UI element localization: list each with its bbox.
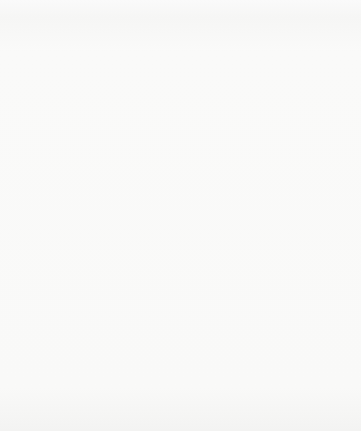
bar-chart-figure: 1101009080706050 Escape acceleration (m … [0, 0, 361, 431]
y-axis-tick-mark [89, 47, 96, 49]
bar [138, 103, 184, 322]
y-axis-tick-mark [89, 275, 96, 277]
x-axis-category-label-line: predators [213, 374, 356, 396]
y-axis-title-exponent: 2 [27, 75, 39, 81]
gridline [98, 48, 351, 49]
gridline [98, 184, 351, 186]
y-axis-tick-mark [89, 184, 96, 186]
gridline [98, 275, 351, 277]
y-axis-title-text: Escape acceleration (m per s [28, 80, 46, 291]
gridline [98, 93, 351, 95]
x-axis-category-label: Source pond:predatorspresent [70, 330, 213, 425]
x-axis-category-label: Source pond:nopredators [213, 330, 356, 425]
y-axis-tick-label: 80 [42, 177, 84, 194]
y-axis-title-suffix: ) [28, 69, 46, 74]
y-axis-tick-label: 90 [42, 131, 84, 148]
gridline [98, 138, 351, 140]
x-axis-category-label-line: Source pond: [213, 330, 356, 352]
plot-area [98, 48, 351, 322]
x-axis-category-label-line: no [213, 352, 356, 374]
y-axis-tick-label: 70 [42, 223, 84, 240]
y-axis-tick-label: 100 [42, 86, 84, 103]
x-axis-category-label-line: present [70, 374, 213, 396]
x-axis-category-label-line: Source pond: [70, 330, 213, 352]
bar [265, 235, 311, 322]
y-axis-tick-label: 50 [42, 314, 84, 331]
y-axis-tick-mark [89, 321, 96, 323]
y-axis-tick-label: 110 [42, 40, 84, 57]
y-axis-tick-mark [89, 230, 96, 232]
y-axis-title: Escape acceleration (m per s2) [27, 15, 48, 345]
y-axis-tick-label: 60 [42, 268, 84, 285]
x-axis-line [96, 322, 351, 324]
x-axis-category-labels: Source pond:predatorspresentSource pond:… [70, 330, 355, 425]
y-axis-tick-mark [89, 93, 96, 95]
gridline [98, 230, 351, 232]
x-axis-category-label-line: predators [70, 352, 213, 374]
y-axis-tick-mark [89, 138, 96, 140]
